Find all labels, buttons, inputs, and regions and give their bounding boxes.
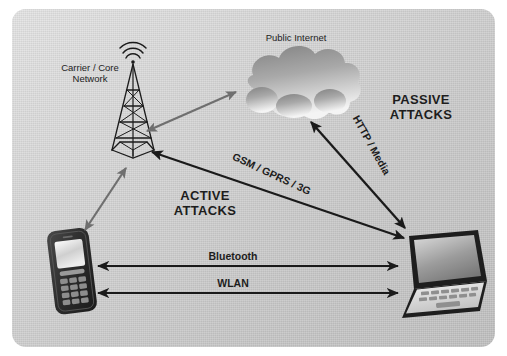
label-carrier-core-network: Carrier / Core Network (48, 62, 132, 84)
label-carrier-line2: Network (48, 73, 132, 84)
label-passive-line2: ATTACKS (366, 107, 476, 122)
label-passive-attacks: PASSIVE ATTACKS (366, 92, 476, 123)
label-active-line1: ACTIVE (150, 188, 260, 203)
label-bluetooth: Bluetooth (178, 250, 288, 262)
diagram-panel (12, 9, 495, 347)
label-wlan: WLAN (178, 277, 288, 289)
label-active-attacks: ACTIVE ATTACKS (150, 188, 260, 219)
label-active-line2: ATTACKS (150, 203, 260, 218)
label-public-internet: Public Internet (236, 32, 356, 43)
label-passive-line1: PASSIVE (366, 92, 476, 107)
label-carrier-line1: Carrier / Core (48, 62, 132, 73)
diagram-root: Carrier / Core Network Public Internet P… (0, 0, 507, 356)
